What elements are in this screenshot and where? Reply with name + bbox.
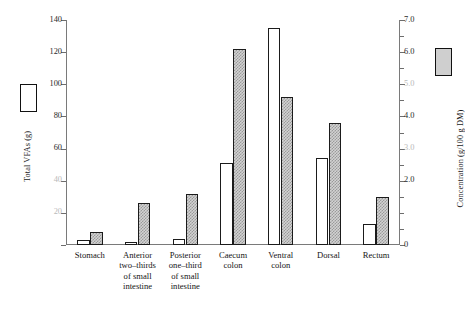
right-tick-mark [400, 197, 404, 198]
bar-concentration [90, 232, 103, 245]
right-axis-legend-block: Concentration (g/100 g DM) [428, 48, 462, 218]
left-tick-label: 20 [54, 207, 62, 216]
bar-concentration [329, 123, 342, 245]
right-tick-label: 3.0 [404, 143, 414, 152]
x-axis-label-line: colon [250, 260, 312, 270]
bar-concentration [281, 97, 294, 245]
left-axis-line [66, 20, 67, 245]
right-tick-mark [400, 133, 404, 134]
bar-concentration [376, 197, 389, 245]
left-tick-label: 40 [54, 175, 62, 184]
right-tick-mark [400, 229, 404, 230]
bar-total-vfas [316, 158, 329, 245]
bar-concentration [138, 203, 151, 245]
right-tick-mark [400, 165, 404, 166]
bar-total-vfas [268, 28, 281, 245]
left-tick-label: 80 [54, 111, 62, 120]
right-tick-mark [400, 213, 404, 214]
left-axis-title: Total VFAs (g) [23, 92, 32, 222]
x-axis-label-line: intestine [154, 281, 216, 291]
right-tick-mark [400, 100, 404, 101]
left-tick-label: 140 [49, 15, 62, 24]
bar-total-vfas [363, 224, 376, 245]
right-tick-label: 0 [404, 240, 408, 249]
right-tick-label: 4.0 [404, 111, 414, 120]
right-tick-label: 5.0 [404, 79, 414, 88]
x-axis-label: Rectum [345, 250, 407, 260]
left-tick-mark [61, 245, 66, 246]
left-axis-legend-block: Total VFAs (g) [8, 58, 48, 208]
left-tick-label: 100 [49, 79, 62, 88]
right-tick-label: 6.0 [404, 47, 414, 56]
right-axis-title: Concentration (g/100 g DM) [456, 64, 465, 254]
bar-total-vfas [173, 239, 186, 245]
bar-total-vfas [220, 163, 233, 245]
bar-concentration [186, 194, 199, 245]
right-tick-mark [400, 36, 404, 37]
left-tick-label: 120 [49, 47, 62, 56]
legend-swatch-shaded-bar [435, 48, 452, 76]
plot-area: 14012010080604020 7.06.05.04.03.02.00 [66, 20, 400, 245]
bar-concentration [233, 49, 246, 245]
bar-total-vfas [125, 242, 138, 245]
right-tick-mark [400, 68, 404, 69]
right-tick-label: 2.0 [404, 175, 414, 184]
bar-total-vfas [77, 240, 90, 245]
left-tick-label: 60 [54, 143, 62, 152]
right-tick-label: 7.0 [404, 15, 414, 24]
x-axis-label-line: of small [154, 271, 216, 281]
x-axis-label-line: Rectum [345, 250, 407, 260]
